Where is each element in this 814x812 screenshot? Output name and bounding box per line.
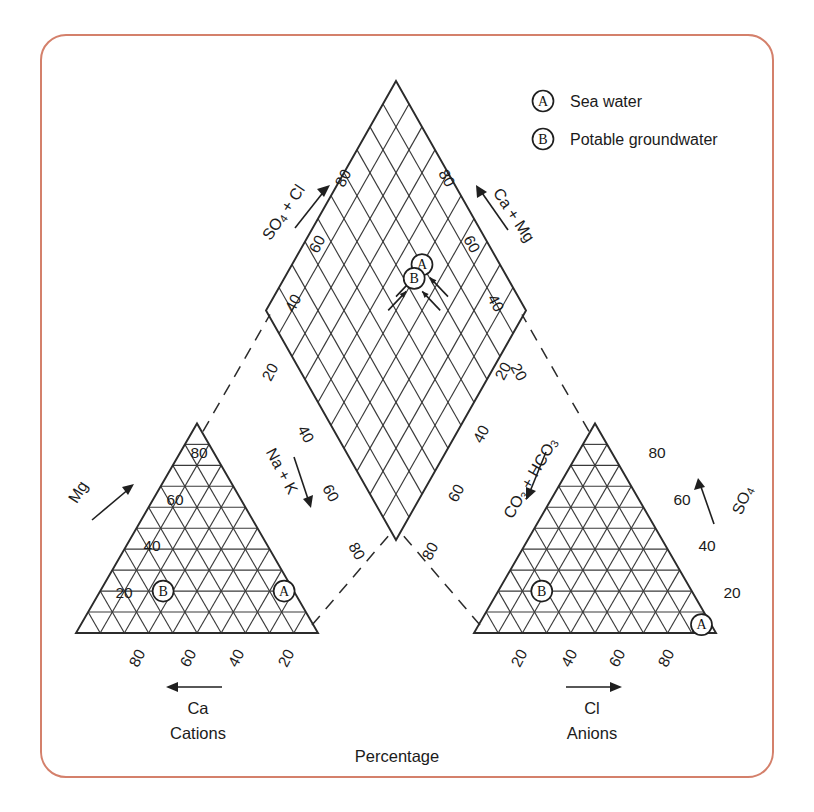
cation-point-a: A <box>274 581 295 602</box>
cation-mg-tick-40: 40 <box>143 537 161 554</box>
diamond-nak-tick-60: 60 <box>319 481 342 505</box>
anion-point-b: B <box>531 581 552 602</box>
diamond-grid <box>279 104 513 517</box>
cation-ca-tick-60: 60 <box>176 646 199 670</box>
cation-ca-arrow-icon <box>166 682 222 692</box>
legend-label-b: Potable groundwater <box>570 131 718 148</box>
anion-point-b-key: B <box>537 584 546 599</box>
anion-cl-arrow-icon <box>566 682 622 692</box>
diamond-camg-tick-40: 40 <box>484 291 507 315</box>
cation-mg-axis-title: Mg <box>65 478 91 506</box>
legend: A Sea water B Potable groundwater <box>533 91 719 150</box>
diamond-nak-tick-80: 80 <box>345 539 368 563</box>
anion-cl-tick-80: 80 <box>654 646 677 670</box>
diamond-co3-tick-60: 60 <box>444 481 467 505</box>
cation-mg-arrow-icon <box>92 484 134 520</box>
diamond-nak-tick-40: 40 <box>294 422 317 446</box>
data-point-markers: ABABAB <box>153 254 712 635</box>
anions-caption: Anions <box>567 724 617 742</box>
cations-caption: Cations <box>170 724 226 742</box>
anion-so4-tick-60: 60 <box>673 491 691 508</box>
legend-item-a: A Sea water <box>533 91 643 112</box>
anion-cl-tick-60: 60 <box>605 646 628 670</box>
diamond-co3-tick-40: 40 <box>469 422 492 446</box>
diamond-point-b: B <box>404 268 425 289</box>
anion-so4-tick-80: 80 <box>648 444 666 461</box>
diamond-so4cl-axis-title: SO4 + Cl <box>258 181 308 243</box>
piper-diagram-svg: 20 40 60 80 Mg 80 60 40 20 Ca Cations 20… <box>0 0 814 812</box>
piper-diagram-page: 20 40 60 80 Mg 80 60 40 20 Ca Cations 20… <box>0 0 814 812</box>
percentage-caption: Percentage <box>355 747 439 765</box>
anion-cl-tick-40: 40 <box>557 646 580 670</box>
cation-point-b: B <box>153 581 174 602</box>
anion-so4-tick-40: 40 <box>698 537 716 554</box>
cation-point-b-key: B <box>158 584 167 599</box>
anion-cl-tick-20: 20 <box>507 646 530 670</box>
cation-point-a-key: A <box>279 584 290 599</box>
cation-ca-tick-40: 40 <box>224 646 247 670</box>
cation-mg-tick-20: 20 <box>115 584 133 601</box>
cation-ca-axis-title: Ca <box>187 699 209 717</box>
diamond-nak-axis-title: Na + K <box>263 445 301 497</box>
legend-marker-a-key: A <box>538 94 549 109</box>
legend-label-a: Sea water <box>570 93 643 110</box>
legend-item-b: B Potable groundwater <box>533 129 719 150</box>
anion-cl-axis-title: Cl <box>584 699 600 717</box>
diamond-point-b-key: B <box>410 271 419 286</box>
cation-mg-tick-80: 80 <box>190 444 208 461</box>
cation-mg-tick-60: 60 <box>166 491 184 508</box>
anion-point-a-key: A <box>696 617 707 632</box>
diamond-so4cl-tick-20: 20 <box>258 360 281 384</box>
diamond-co3-axis-title: CO3 + HCO3 <box>500 435 561 522</box>
cation-ca-tick-20: 20 <box>274 646 297 670</box>
legend-marker-b-key: B <box>538 132 547 147</box>
anion-triangle-grid <box>486 444 704 633</box>
anion-point-a: A <box>691 614 712 635</box>
cation-triangle-grid <box>88 444 306 633</box>
anion-so4-axis-title: SO4 <box>728 483 757 517</box>
diamond-co3-tick-80: 80 <box>418 539 441 563</box>
anion-so4-arrow-icon <box>694 478 714 524</box>
cation-ca-tick-80: 80 <box>125 646 148 670</box>
diamond-labels: 20 40 60 80 SO4 + Cl 20 40 60 80 Ca + Mg… <box>258 166 561 563</box>
diamond-co3-tick-20: 20 <box>491 359 514 383</box>
anion-so4-tick-20: 20 <box>723 584 741 601</box>
